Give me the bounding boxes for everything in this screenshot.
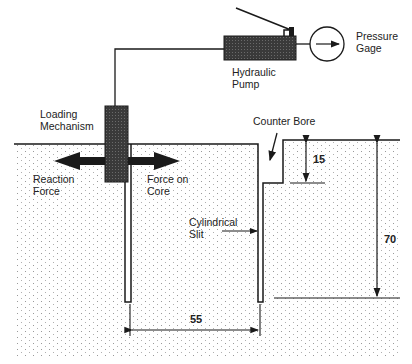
pump-handle: [236, 8, 291, 36]
force-on-core-label: Force on Core: [147, 173, 188, 197]
pressure-gage-label: Pressure Gage: [356, 30, 398, 54]
counter-bore-label: Counter Bore: [253, 115, 315, 127]
dimension-15-label: 15: [313, 153, 325, 165]
hydraulic-line: [115, 49, 224, 106]
hydraulic-pump: [224, 36, 296, 60]
pump-valve: [289, 27, 294, 36]
dimension-70-label: 70: [384, 233, 396, 245]
loading-mechanism-label: Loading Mechanism: [40, 108, 94, 132]
dimension-55-label: 55: [190, 313, 202, 325]
hydraulic-pump-label: Hydraulic Pump: [232, 66, 276, 90]
reaction-force-label: Reaction Force: [33, 173, 74, 197]
loading-mechanism: [105, 106, 128, 182]
cylindrical-slit-label: Cylindrical Slit: [189, 216, 237, 240]
